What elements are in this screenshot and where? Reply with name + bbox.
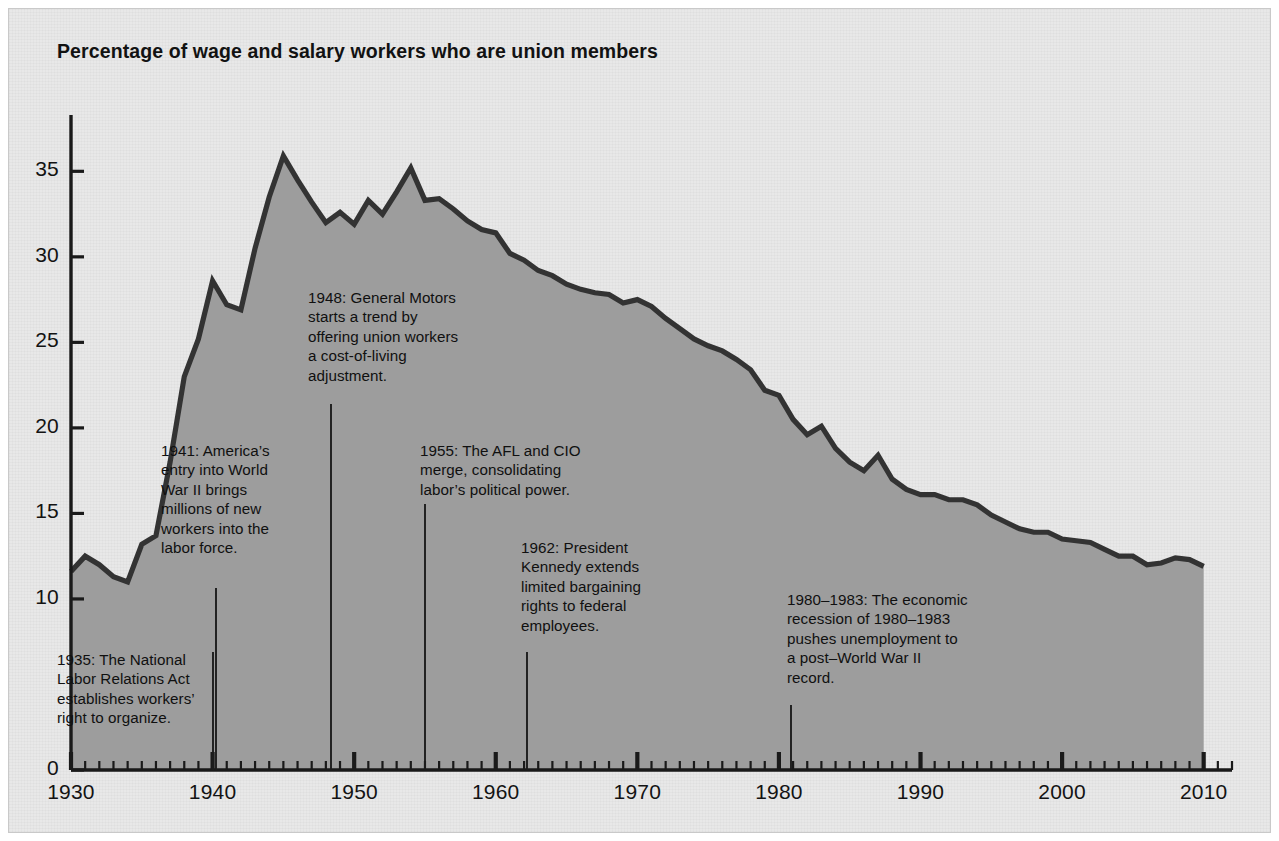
- annotation-1955: 1955: The AFL and CIO merge, consolidati…: [420, 441, 581, 499]
- x-tick-label: 1960: [451, 780, 541, 804]
- x-tick-label: 2010: [1159, 780, 1249, 804]
- y-tick-label: 20: [13, 414, 59, 438]
- x-tick-label: 2000: [1017, 780, 1107, 804]
- x-tick-label: 1930: [26, 780, 116, 804]
- y-tick-label: 25: [13, 328, 59, 352]
- annotation-1962: 1962: President Kennedy extends limited …: [521, 538, 641, 635]
- x-tick-label: 1950: [309, 780, 399, 804]
- y-tick-label: 35: [13, 157, 59, 181]
- annotation-1948: 1948: General Motors starts a trend by o…: [308, 288, 458, 385]
- annotation-1980-1983: 1980–1983: The economic recession of 198…: [787, 590, 968, 687]
- x-tick-label: 1940: [168, 780, 258, 804]
- annotation-1941: 1941: America’s entry into World War II …: [161, 441, 270, 557]
- annotation-1935: 1935: The National Labor Relations Act e…: [57, 650, 195, 728]
- x-tick-label: 1970: [592, 780, 682, 804]
- y-tick-label: 10: [13, 585, 59, 609]
- y-tick-label: 15: [13, 499, 59, 523]
- chart-page: Percentage of wage and salary workers wh…: [0, 0, 1279, 841]
- y-tick-label: 30: [13, 243, 59, 267]
- y-tick-label: 0: [13, 756, 59, 780]
- x-tick-label: 1990: [876, 780, 966, 804]
- x-tick-label: 1980: [734, 780, 824, 804]
